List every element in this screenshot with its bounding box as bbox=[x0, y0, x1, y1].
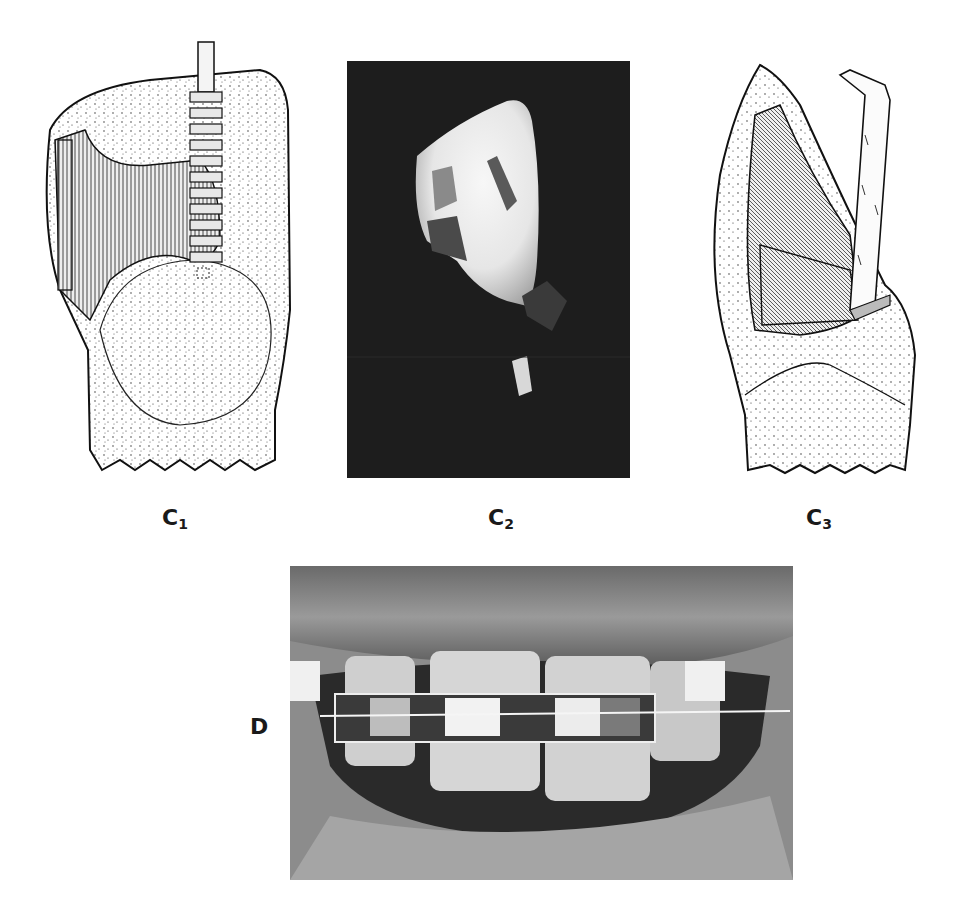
panel-label-d: D bbox=[250, 714, 268, 739]
tooth-drawing-c3 bbox=[700, 55, 930, 480]
panel-label-c1: C1 bbox=[162, 505, 188, 532]
panel-d-photo bbox=[290, 566, 793, 880]
label-subscript: 2 bbox=[504, 516, 514, 532]
tooth-drawing-c1 bbox=[30, 30, 330, 480]
label-letter: C bbox=[162, 505, 178, 530]
label-letter: D bbox=[250, 714, 268, 739]
panel-c1-drawing bbox=[30, 30, 330, 480]
mouth-photo-d bbox=[290, 566, 793, 880]
panel-label-c3: C3 bbox=[806, 505, 832, 532]
label-letter: C bbox=[806, 505, 822, 530]
panel-label-c2: C2 bbox=[488, 505, 514, 532]
label-subscript: 3 bbox=[822, 516, 832, 532]
label-letter: C bbox=[488, 505, 504, 530]
tooth-photo-c2 bbox=[347, 61, 630, 478]
panel-c2-photo bbox=[347, 61, 630, 478]
label-subscript: 1 bbox=[178, 516, 188, 532]
panel-c3-drawing bbox=[700, 55, 930, 480]
